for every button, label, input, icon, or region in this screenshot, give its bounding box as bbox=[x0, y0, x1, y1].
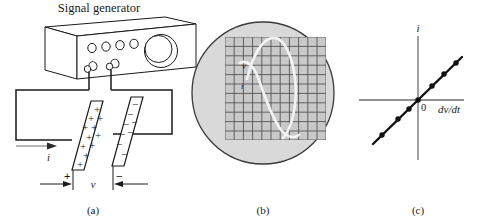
panel-b: v i (b) bbox=[192, 22, 334, 217]
y-axis-label: i bbox=[416, 22, 419, 34]
voltage-label: v bbox=[91, 179, 96, 190]
plus-sign: + bbox=[83, 149, 89, 161]
current-arrow-head-icon bbox=[47, 142, 57, 149]
minus-sign: − bbox=[121, 148, 127, 160]
x-axis-label: dv/dt bbox=[438, 103, 461, 115]
terminal-right-base-icon[interactable] bbox=[106, 63, 112, 70]
dim-plus-sign: + bbox=[64, 170, 70, 182]
data-point bbox=[406, 106, 411, 111]
plus-sign: + bbox=[89, 139, 95, 151]
data-point bbox=[379, 132, 384, 137]
data-point bbox=[453, 60, 458, 65]
dim-minus-sign: − bbox=[116, 170, 122, 182]
origin-label: 0 bbox=[421, 102, 426, 113]
caption-a: (a) bbox=[87, 204, 100, 217]
data-point-origin bbox=[415, 97, 420, 102]
terminal-left-base-icon[interactable] bbox=[84, 66, 90, 73]
knob-1-icon[interactable] bbox=[88, 43, 96, 52]
figure-container: Signal generator bbox=[0, 0, 481, 222]
plus-sign: + bbox=[77, 158, 83, 170]
wire-left-loop bbox=[16, 90, 89, 140]
voltage-dimension-group: + − v bbox=[40, 166, 148, 190]
knob-4-icon[interactable] bbox=[130, 39, 138, 48]
caption-b: (b) bbox=[257, 204, 270, 217]
data-point bbox=[441, 71, 446, 76]
figure-svg: Signal generator bbox=[0, 0, 481, 222]
panel-a: Signal generator bbox=[16, 1, 196, 217]
generator-left-face bbox=[45, 27, 77, 79]
minus-sign: − bbox=[127, 126, 133, 138]
main-dial-inner-icon[interactable] bbox=[145, 36, 172, 63]
generator-main-dial[interactable] bbox=[145, 35, 178, 68]
panel-c: i dv/dt 0 (c) bbox=[359, 22, 464, 217]
current-label: i bbox=[47, 152, 50, 163]
caption-c: (c) bbox=[412, 204, 425, 217]
data-point bbox=[395, 116, 400, 121]
knob-3-icon[interactable] bbox=[116, 41, 124, 50]
plus-sign: + bbox=[95, 129, 101, 141]
data-point bbox=[429, 83, 434, 88]
signal-generator-box bbox=[45, 17, 196, 79]
plus-sign: + bbox=[97, 112, 103, 124]
signal-generator-title: Signal generator bbox=[58, 1, 141, 15]
knob-2-icon[interactable] bbox=[102, 42, 110, 51]
current-arrow-group: i bbox=[16, 142, 57, 163]
trace-voltage-label: v bbox=[242, 61, 246, 71]
